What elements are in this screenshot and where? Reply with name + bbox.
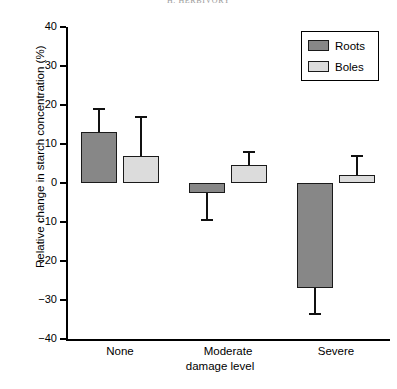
chart-legend: Roots Boles: [301, 31, 379, 81]
error-bar-cap: [135, 116, 147, 118]
y-axis-tick: [60, 104, 66, 105]
bar-roots-moderate: [189, 183, 225, 193]
error-bar-stem: [248, 152, 250, 166]
x-axis-label-moderate: Moderate: [173, 345, 283, 358]
y-axis-tick: [60, 260, 66, 261]
y-axis-tick: [60, 299, 66, 300]
legend-item-boles: Boles: [308, 58, 372, 75]
legend-swatch-boles-icon: [308, 61, 329, 72]
bar-boles-severe: [339, 175, 375, 183]
legend-item-roots: Roots: [308, 37, 372, 54]
y-axis-title: Relative change in starch concentration …: [34, 42, 48, 272]
error-bar-cap: [201, 219, 213, 221]
legend-swatch-roots-icon: [308, 40, 329, 51]
legend-label-boles: Boles: [335, 61, 364, 73]
y-axis-tick: [60, 143, 66, 144]
y-axis-tick-label: −30: [17, 294, 57, 305]
y-axis-tick: [60, 26, 66, 27]
y-axis-tick: [60, 221, 66, 222]
error-bar-stem: [206, 193, 208, 220]
error-bar-cap: [243, 151, 255, 153]
bar-boles-moderate: [231, 165, 267, 183]
starch-concentration-bar-chart: 403020100−10−20−30−40 NoneModerateSevere…: [0, 0, 397, 389]
x-axis-label-severe: Severe: [281, 345, 391, 358]
error-bar-cap: [309, 313, 321, 315]
bar-roots-severe: [297, 183, 333, 288]
error-bar-stem: [314, 288, 316, 313]
error-bar-cap: [351, 155, 363, 157]
bar-boles-none: [123, 156, 159, 183]
y-axis-tick: [60, 182, 66, 183]
error-bar-stem: [140, 117, 142, 156]
x-axis-label-none: None: [65, 345, 175, 358]
y-axis-tick-label: 40: [17, 21, 57, 32]
y-axis-tick: [60, 65, 66, 66]
error-bar-stem: [98, 109, 100, 132]
error-bar-stem: [356, 156, 358, 176]
y-axis-tick-label: −40: [17, 333, 57, 344]
y-axis-tick: [60, 338, 66, 339]
x-axis-line: [66, 339, 390, 341]
bar-roots-none: [81, 132, 117, 183]
error-bar-cap: [93, 108, 105, 110]
y-axis-line: [66, 27, 68, 339]
legend-label-roots: Roots: [335, 40, 365, 52]
x-axis-title: damage level: [145, 360, 295, 373]
